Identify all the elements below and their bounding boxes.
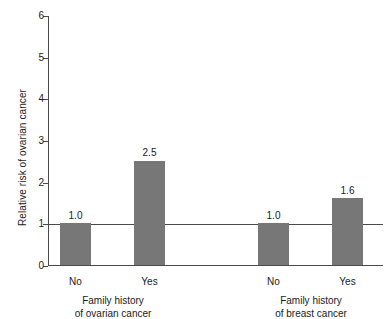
x-label-ovarian-no: No bbox=[51, 275, 100, 288]
plot-area: 0 1 2 3 4 5 6 1 bbox=[48, 16, 383, 266]
bar-value-breast-no: 1.0 bbox=[249, 210, 298, 222]
y-tick-5: 5 bbox=[48, 58, 49, 59]
y-tick-3: 3 bbox=[48, 141, 49, 142]
y-tick-label: 1 bbox=[22, 217, 44, 230]
x-label-breast-no: No bbox=[249, 275, 298, 288]
y-tick-label: 2 bbox=[22, 176, 44, 189]
bar-value-breast-yes: 1.6 bbox=[323, 185, 372, 197]
group-caption-breast-line2: of breast cancer bbox=[231, 307, 388, 319]
group-caption-breast-line1: Family history bbox=[231, 294, 388, 307]
y-axis-title: Relative risk of ovarian cancer bbox=[17, 48, 28, 268]
y-tick-4: 4 bbox=[48, 99, 49, 100]
y-tick-label: 4 bbox=[22, 92, 44, 105]
group-caption-ovarian-line1: Family history bbox=[33, 294, 193, 307]
group-caption-ovarian-line2: of ovarian cancer bbox=[33, 307, 193, 319]
y-tick-2: 2 bbox=[48, 183, 49, 184]
bar-breast-no bbox=[258, 223, 289, 265]
y-tick-label: 6 bbox=[22, 9, 44, 22]
x-label-ovarian-yes: Yes bbox=[125, 275, 174, 288]
y-tick-label: 0 bbox=[22, 259, 44, 272]
bar-ovarian-no bbox=[60, 223, 91, 265]
bar-value-ovarian-yes: 2.5 bbox=[125, 147, 174, 159]
bar-ovarian-yes bbox=[134, 161, 165, 265]
bar-breast-yes bbox=[332, 198, 363, 265]
bar-value-ovarian-no: 1.0 bbox=[51, 210, 100, 222]
x-axis-baseline bbox=[48, 265, 383, 266]
y-tick-0: 0 bbox=[48, 266, 49, 267]
y-tick-label: 3 bbox=[22, 134, 44, 147]
bar-chart: Relative risk of ovarian cancer 0 1 2 3 … bbox=[0, 0, 388, 319]
y-tick-label: 5 bbox=[22, 51, 44, 64]
y-tick-6: 6 bbox=[48, 16, 49, 17]
x-label-breast-yes: Yes bbox=[323, 275, 372, 288]
